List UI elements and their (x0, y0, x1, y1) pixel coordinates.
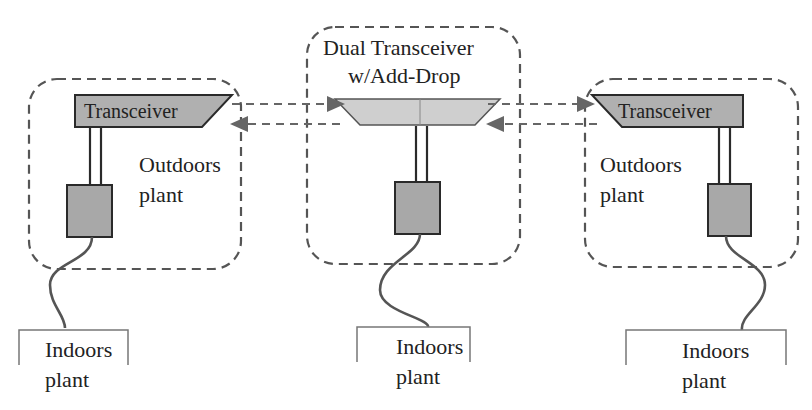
left-indoor-label-line2: plant (45, 367, 89, 392)
center-unit-box[interactable] (395, 182, 440, 234)
right-indoor-label-line1: Indoors (682, 338, 749, 363)
right-unit-box[interactable] (708, 184, 751, 236)
center-indoor-label-line2: plant (396, 364, 440, 389)
right-cable (726, 236, 765, 330)
left-transceiver-label: Transceiver (84, 100, 178, 122)
left-unit-box[interactable] (67, 185, 112, 237)
network-diagram: Transceiver Outdoors plant Indoors plant… (0, 0, 812, 410)
right-transceiver-label: Transceiver (618, 100, 712, 122)
center-title-line2: w/Add-Drop (348, 63, 460, 88)
center-node: Dual Transceiver w/Add-Drop Indoors plan… (307, 27, 520, 389)
right-node: Transceiver Outdoors plant Indoors plant (585, 79, 798, 393)
left-outdoor-label-line1: Outdoors (139, 152, 221, 177)
left-indoor-label-line1: Indoors (45, 337, 112, 362)
right-outdoor-label-line2: plant (600, 182, 644, 207)
center-cable (380, 234, 428, 327)
right-outdoor-label-line1: Outdoors (600, 152, 682, 177)
left-node: Transceiver Outdoors plant Indoors plant (19, 79, 241, 392)
center-add-drop-unit[interactable] (335, 99, 500, 125)
center-indoor-label-line1: Indoors (396, 334, 463, 359)
right-indoor-label-line2: plant (682, 368, 726, 393)
left-cable (50, 237, 92, 328)
center-title-line1: Dual Transceiver (323, 35, 475, 60)
left-outdoor-label-line2: plant (139, 182, 183, 207)
